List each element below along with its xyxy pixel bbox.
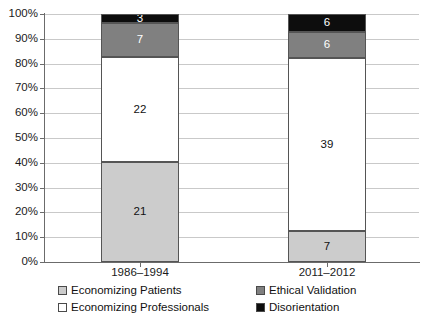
- bar-segment-value: 22: [134, 104, 147, 116]
- legend-item-ethical-validation[interactable]: Ethical Validation: [256, 284, 356, 296]
- bar-segment-value: 6: [324, 17, 330, 29]
- y-axis-label: 40%: [0, 157, 38, 168]
- legend-item-economizing-professionals[interactable]: Economizing Professionals: [58, 301, 209, 313]
- bar-segment[interactable]: 3: [101, 14, 179, 23]
- bar-segment[interactable]: 22: [101, 57, 179, 162]
- y-axis-label: 50%: [0, 132, 38, 143]
- y-axis-tick: [40, 138, 45, 139]
- bar-segment[interactable]: 6: [288, 14, 366, 32]
- y-axis-tick: [40, 14, 45, 15]
- x-axis-label: 2011–2012: [267, 266, 387, 278]
- bar-segment-value: 7: [137, 34, 143, 46]
- y-axis-tick: [40, 212, 45, 213]
- legend-label: Economizing Patients: [71, 284, 182, 296]
- legend-swatch-icon: [256, 303, 265, 312]
- legend-swatch-icon: [256, 286, 265, 295]
- bar-segment-value: 7: [324, 241, 330, 253]
- y-axis-tick: [40, 64, 45, 65]
- bar-segment[interactable]: 7: [288, 231, 366, 262]
- y-axis-label: 100%: [0, 8, 38, 19]
- bar-segment-value: 21: [134, 206, 147, 218]
- y-axis-tick: [40, 262, 45, 263]
- bar-column: 66397: [288, 14, 366, 262]
- legend-item-disorientation[interactable]: Disorientation: [256, 301, 339, 313]
- bar-segment[interactable]: 7: [101, 23, 179, 56]
- y-axis-tick: [40, 88, 45, 89]
- bar-segment-value: 39: [321, 139, 334, 151]
- chart-legend: Economizing Patients Economizing Profess…: [58, 284, 388, 324]
- bar-segment[interactable]: 21: [101, 162, 179, 262]
- bar-segment-value: 6: [324, 39, 330, 51]
- y-axis-tick: [40, 163, 45, 164]
- y-axis-tick: [40, 113, 45, 114]
- legend-swatch-icon: [58, 286, 67, 295]
- y-axis-label: 10%: [0, 231, 38, 242]
- legend-label: Economizing Professionals: [71, 301, 209, 313]
- y-axis-tick: [40, 237, 45, 238]
- x-axis-line: [44, 262, 420, 263]
- y-axis-label: 0%: [0, 256, 38, 267]
- y-axis-label: 90%: [0, 33, 38, 44]
- y-axis-label: 80%: [0, 58, 38, 69]
- bar-segment[interactable]: 6: [288, 32, 366, 59]
- legend-label: Disorientation: [269, 301, 339, 313]
- y-axis-tick: [40, 39, 45, 40]
- legend-label: Ethical Validation: [269, 284, 356, 296]
- y-axis-label: 20%: [0, 206, 38, 217]
- y-axis-label: 30%: [0, 182, 38, 193]
- legend-item-economizing-patients[interactable]: Economizing Patients: [58, 284, 182, 296]
- legend-swatch-icon: [58, 303, 67, 312]
- bar-segment-value: 3: [137, 14, 143, 23]
- y-axis-tick: [40, 188, 45, 189]
- y-axis-label: 60%: [0, 107, 38, 118]
- y-axis-label: 70%: [0, 82, 38, 93]
- x-axis-label: 1986–1994: [80, 266, 200, 278]
- stacked-bar-chart: 0%10%20%30%40%50%60%70%80%90%100% 372221…: [0, 0, 428, 331]
- bar-segment[interactable]: 39: [288, 58, 366, 231]
- bar-column: 372221: [101, 14, 179, 262]
